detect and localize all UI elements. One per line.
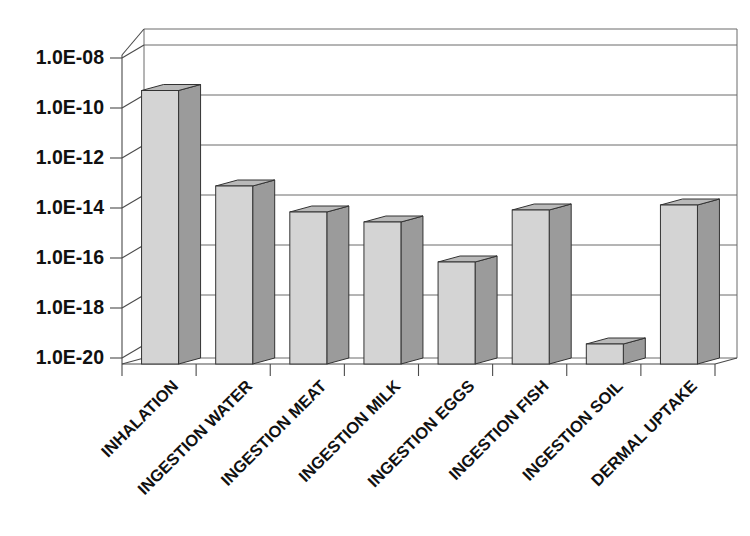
y-tick-depth-connector [122, 145, 144, 158]
x-axis-labels: INHALATIONINGESTION WATERINGESTION MEATI… [97, 376, 700, 497]
bar-side-face [327, 206, 349, 364]
y-tick-label: 1.0E-20 [36, 346, 104, 368]
bar-2 [216, 180, 275, 364]
bar-1 [142, 85, 201, 365]
bar-front-face [216, 186, 253, 364]
bar-3 [290, 206, 349, 364]
y-tick-label: 1.0E-18 [36, 296, 104, 318]
y-tick-label: 1.0E-12 [36, 146, 104, 168]
y-axis-ticks [110, 45, 144, 358]
y-tick-label: 1.0E-14 [36, 196, 104, 218]
chart-floor [122, 358, 737, 364]
y-tick-depth-connector [122, 295, 144, 308]
bar-7 [586, 338, 645, 364]
chart-container: 1.0E-081.0E-101.0E-121.0E-141.0E-161.0E-… [0, 0, 750, 536]
y-axis-labels: 1.0E-081.0E-101.0E-121.0E-141.0E-161.0E-… [36, 46, 104, 368]
y-tick-depth-connector [122, 195, 144, 208]
bar-side-face [179, 85, 201, 365]
bar-side-face [475, 256, 497, 364]
y-tick-depth-connector [122, 345, 144, 358]
bar-side-face [697, 199, 719, 364]
bar-front-face [438, 262, 475, 364]
bar-5 [438, 256, 497, 364]
y-tick-label: 1.0E-10 [36, 96, 104, 118]
x-tick-label: INHALATION [97, 376, 181, 460]
bar-front-face [142, 91, 179, 365]
bar-4 [364, 216, 423, 364]
y-tick-depth-connector [122, 245, 144, 258]
bar-side-face [253, 180, 275, 364]
bar-side-face [549, 204, 571, 364]
bar-side-face [401, 216, 423, 364]
bar-chart: 1.0E-081.0E-101.0E-121.0E-141.0E-161.0E-… [0, 0, 750, 536]
bar-front-face [364, 222, 401, 364]
y-tick-depth-connector [122, 95, 144, 108]
bar-front-face [290, 212, 327, 364]
bar-6 [512, 204, 571, 364]
bar-8 [660, 199, 719, 364]
bar-front-face [660, 205, 697, 364]
y-tick-label: 1.0E-16 [36, 246, 104, 268]
bar-front-face [512, 210, 549, 364]
x-axis-ticks [122, 364, 715, 376]
bar-front-face [586, 344, 623, 364]
y-tick-label: 1.0E-08 [36, 46, 104, 68]
